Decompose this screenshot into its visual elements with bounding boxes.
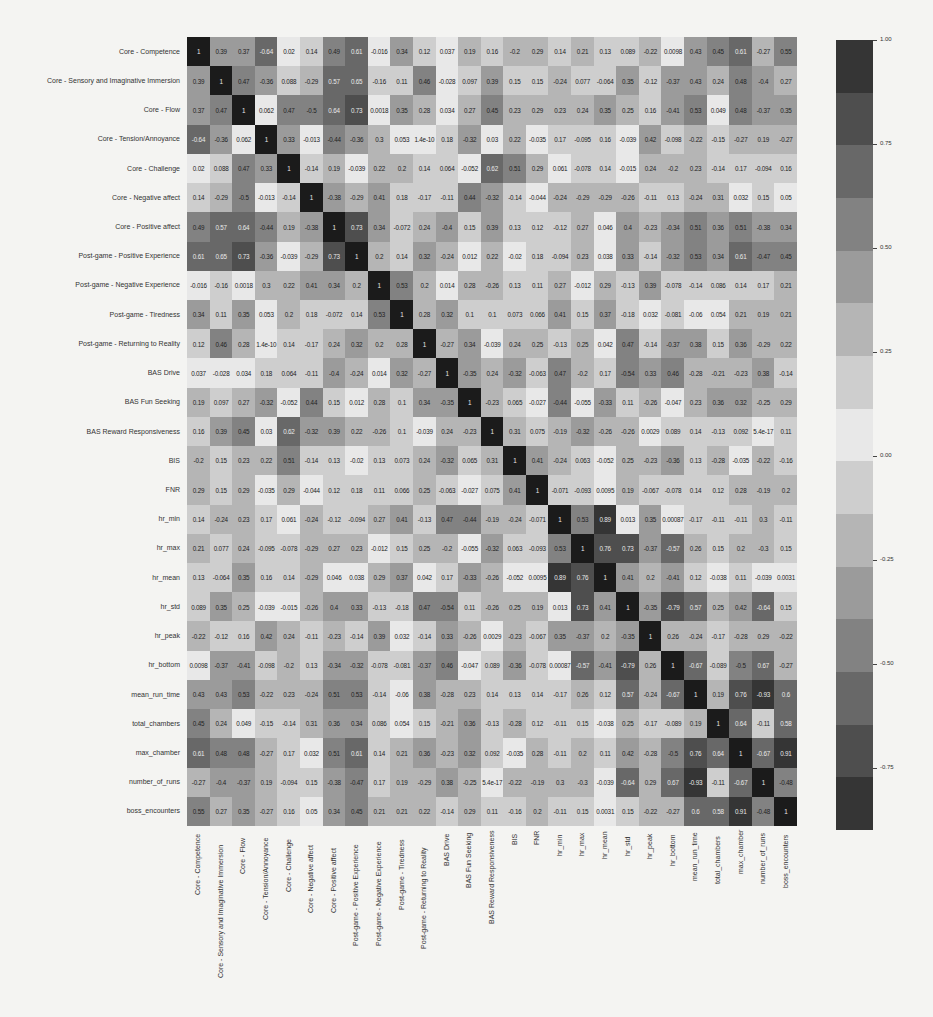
- heatmap-cell: -0.64: [255, 37, 278, 67]
- heatmap-cell: 0.48: [210, 738, 233, 768]
- heatmap-cell: 0.64: [232, 212, 255, 242]
- heatmap-cell: 0.053: [255, 300, 278, 330]
- heatmap-cell: -0.13: [481, 709, 504, 739]
- x-tick-label: hr_std: [624, 836, 631, 855]
- heatmap-cell: 1: [729, 738, 752, 768]
- heatmap-cell: 0.61: [345, 37, 368, 67]
- y-tick-label: Core - Sensory and Imaginative Immersion: [47, 77, 180, 84]
- heatmap-cell: 0.43: [187, 680, 210, 710]
- heatmap-cell: 0.21: [774, 300, 797, 330]
- heatmap-cell: 0.2: [774, 475, 797, 505]
- heatmap-cell: 0.0018: [368, 95, 391, 125]
- heatmap-cell: 1: [255, 125, 278, 155]
- heatmap-cell: 0.15: [616, 797, 639, 827]
- heatmap-cell: 0.00087: [661, 505, 684, 535]
- heatmap-cell: -0.11: [436, 183, 459, 213]
- heatmap-cell: 0.43: [684, 37, 707, 67]
- heatmap-cell: -0.072: [390, 212, 413, 242]
- heatmap-cell: -0.25: [458, 768, 481, 798]
- heatmap-cell: -0.17: [707, 621, 730, 651]
- heatmap-cell: 0.41: [526, 446, 549, 476]
- heatmap-cell: -0.79: [616, 651, 639, 681]
- heatmap-cell: 0.24: [571, 95, 594, 125]
- heatmap-cell: 0.55: [774, 37, 797, 67]
- heatmap-cell: 0.014: [436, 271, 459, 301]
- heatmap-cell: -0.06: [684, 300, 707, 330]
- heatmap-cell: 0.91: [729, 797, 752, 827]
- heatmap-cell: -0.25: [752, 388, 775, 418]
- heatmap-cell: 1: [232, 95, 255, 125]
- heatmap-cell: -0.67: [729, 768, 752, 798]
- heatmap-cell: 0.39: [210, 37, 233, 67]
- heatmap-cell: -0.098: [255, 651, 278, 681]
- heatmap-cell: -0.27: [436, 329, 459, 359]
- heatmap-cell: -0.2: [661, 154, 684, 184]
- heatmap-cell: 0.35: [232, 300, 255, 330]
- heatmap-cell: 0.064: [436, 154, 459, 184]
- heatmap-cell: -0.29: [300, 66, 323, 96]
- heatmap-cell: 0.21: [729, 300, 752, 330]
- heatmap-cell: -0.078: [661, 475, 684, 505]
- heatmap-cell: 0.67: [752, 651, 775, 681]
- heatmap-cell: -0.37: [661, 329, 684, 359]
- heatmap-cell: 0.28: [413, 300, 436, 330]
- heatmap-cell: 1: [277, 154, 300, 184]
- heatmap-cell: 1.4e-10: [413, 125, 436, 155]
- heatmap-cell: -0.37: [661, 66, 684, 96]
- heatmap-cell: 0.36: [729, 329, 752, 359]
- heatmap-cell: 0.24: [503, 329, 526, 359]
- heatmap-cell: 0.073: [503, 300, 526, 330]
- heatmap-cell: 0.91: [774, 738, 797, 768]
- heatmap-cell: 0.51: [729, 212, 752, 242]
- heatmap-cell: 0.053: [390, 125, 413, 155]
- heatmap-cell: 0.21: [774, 271, 797, 301]
- heatmap-cell: -0.21: [436, 709, 459, 739]
- colorbar-segment: [836, 777, 873, 830]
- heatmap-cell: -0.11: [548, 797, 571, 827]
- colorbar-segment: [836, 725, 873, 778]
- heatmap-cell: 0.23: [277, 680, 300, 710]
- heatmap-cell: -0.37: [232, 768, 255, 798]
- heatmap-cell: 0.29: [774, 388, 797, 418]
- heatmap-cell: 0.13: [503, 680, 526, 710]
- heatmap-cell: 1: [503, 446, 526, 476]
- heatmap-cell: 0.14: [594, 154, 617, 184]
- heatmap-cell: 0.35: [232, 563, 255, 593]
- x-tick-label: BAS Drive: [443, 834, 450, 866]
- colorbar-tick: [873, 768, 877, 769]
- heatmap-cell: 0.61: [729, 242, 752, 272]
- heatmap-cell: 0.41: [548, 300, 571, 330]
- heatmap-cell: 0.23: [458, 680, 481, 710]
- heatmap-cell: 0.14: [729, 271, 752, 301]
- y-tick-label: Post-game - Positive Experience: [78, 252, 180, 259]
- heatmap-cell: 0.054: [390, 709, 413, 739]
- heatmap-cell: 0.53: [548, 534, 571, 564]
- heatmap-cell: 0.37: [594, 300, 617, 330]
- heatmap-cell: 0.25: [413, 475, 436, 505]
- heatmap-cell: 0.36: [413, 738, 436, 768]
- heatmap-cell: -0.19: [752, 475, 775, 505]
- heatmap-cell: 0.18: [436, 125, 459, 155]
- x-tick-label: total_chambers: [714, 837, 721, 885]
- heatmap-cell: 0.47: [277, 95, 300, 125]
- heatmap-cell: 0.25: [616, 95, 639, 125]
- heatmap-cell: 0.02: [187, 154, 210, 184]
- heatmap-cell: -0.14: [436, 797, 459, 827]
- heatmap-cell: -0.37: [210, 651, 233, 681]
- heatmap-cell: 0.15: [752, 183, 775, 213]
- heatmap-cell: 0.11: [526, 271, 549, 301]
- colorbar-segment: [836, 514, 873, 567]
- heatmap-cell: 1: [413, 329, 436, 359]
- heatmap-cell: 0.23: [684, 388, 707, 418]
- heatmap-cell: 1: [616, 592, 639, 622]
- heatmap-cell: 0.24: [323, 329, 346, 359]
- heatmap-cell: 0.15: [571, 300, 594, 330]
- colorbar-segment: [836, 409, 873, 462]
- heatmap-cell: 0.2: [390, 154, 413, 184]
- heatmap-cell: 0.16: [187, 417, 210, 447]
- heatmap-cell: 0.64: [707, 738, 730, 768]
- heatmap-cell: 0.89: [548, 563, 571, 593]
- heatmap-cell: 0.13: [368, 446, 391, 476]
- heatmap-cell: -0.57: [661, 534, 684, 564]
- heatmap-cell: 0.2: [368, 242, 391, 272]
